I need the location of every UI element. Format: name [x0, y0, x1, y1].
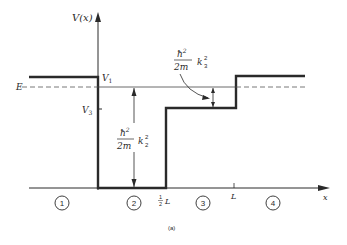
half-L-tick-label: 1 2 L [158, 194, 170, 207]
potential-profile [29, 76, 305, 188]
svg-text:ħ2: ħ2 [177, 47, 187, 59]
k3-pointer-curve [180, 74, 208, 98]
region-4-marker: 4 [266, 196, 280, 210]
svg-text:2: 2 [132, 199, 137, 208]
svg-text:k: k [138, 136, 143, 146]
y-axis-arrow-icon [95, 12, 101, 22]
k3-annotation: ħ2 2m k 2 3 [173, 47, 208, 72]
svg-text:2m: 2m [173, 62, 188, 72]
arrow-down-icon [132, 179, 137, 187]
arrow-down-icon [211, 102, 215, 107]
arrow-up-icon [211, 88, 215, 93]
svg-text:2: 2 [204, 55, 208, 61]
svg-text:2: 2 [145, 134, 149, 140]
region-3-marker: 3 [196, 196, 210, 210]
svg-text:2m: 2m [116, 141, 131, 151]
svg-text:2: 2 [145, 142, 149, 148]
svg-text:2: 2 [159, 201, 162, 207]
svg-text:k: k [197, 57, 202, 67]
figure-caption: (a) [168, 225, 175, 231]
arrow-up-icon [132, 88, 137, 96]
y-axis-label: V(x) [72, 12, 93, 23]
svg-text:3: 3 [201, 199, 206, 208]
svg-text:L: L [164, 197, 170, 206]
x-axis-arrow-icon [318, 185, 330, 191]
L-tick-label: L [230, 192, 236, 201]
energy-label: E [15, 82, 23, 92]
svg-text:1: 1 [159, 194, 162, 200]
region-1-marker: 1 [55, 196, 69, 210]
svg-text:1: 1 [60, 199, 65, 208]
k2-annotation: ħ2 2m k 2 2 [116, 126, 149, 151]
potential-diagram: V(x) x E V1 V3 ħ2 2m k 2 2 ħ2 2m k 2 3 [0, 0, 347, 245]
x-axis-label: x [323, 193, 328, 202]
svg-text:4: 4 [271, 199, 276, 208]
v3-label: V3 [82, 105, 93, 116]
x-axis [29, 185, 330, 191]
svg-text:3: 3 [204, 63, 208, 69]
region-2-marker: 2 [127, 196, 141, 210]
v1-label: V1 [102, 73, 112, 84]
pointer-arrow-icon [202, 95, 210, 100]
svg-text:ħ2: ħ2 [120, 126, 130, 138]
